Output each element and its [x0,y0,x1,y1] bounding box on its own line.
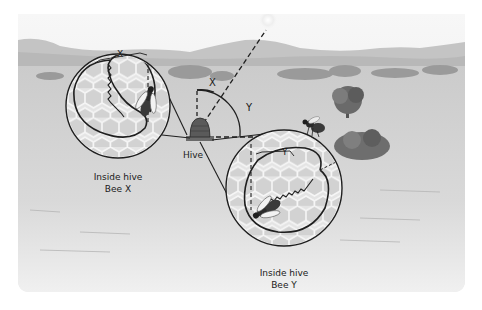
sun-icon [259,11,277,29]
inset-x-angle-label: X [117,49,123,59]
waggle-dance-illustration: X Y Hive [0,0,482,310]
inset-x-caption-line2: Bee X [105,184,131,194]
inset-y-caption-line2: Bee Y [271,280,297,290]
hive-label: Hive [183,150,204,160]
angle-y-label: Y [245,102,253,113]
inset-y-angle-label: Y [281,147,288,157]
angle-x-label: X [209,77,216,88]
inset-y-caption-line1: Inside hive [260,268,309,278]
inset-x-caption-line1: Inside hive [94,172,143,182]
